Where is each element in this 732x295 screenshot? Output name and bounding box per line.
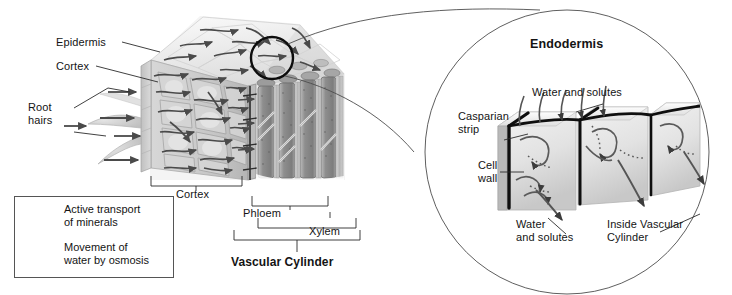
epidermis-left-face <box>141 60 151 172</box>
endodermis-cell <box>578 107 648 205</box>
root-block-3d <box>64 16 345 180</box>
label-epidermis: Epidermis <box>56 36 106 49</box>
figure-canvas: Epidermis Cortex Root hairs Cortex Phloe… <box>0 0 732 295</box>
legend-item-label-0: Active transport of minerals <box>64 203 140 229</box>
label-inside-vascular-cylinder: Inside Vascular Cylinder <box>607 218 683 243</box>
label-root-hairs: Root hairs <box>28 101 52 126</box>
label-water-and-solutes-top: Water and solutes <box>532 86 622 99</box>
label-phloem: Phloem <box>243 207 281 220</box>
label-vascular-cylinder: Vascular Cylinder <box>231 256 333 269</box>
endodermis-inset-panel <box>425 10 709 294</box>
root-hairs-structure <box>88 93 141 164</box>
label-cell-wall: Cell wall <box>478 159 497 184</box>
label-cortex-bracket: Cortex <box>176 188 209 201</box>
label-casparian-strip: Casparian strip <box>458 110 509 135</box>
label-cortex-left: Cortex <box>56 60 89 73</box>
vascular-cylinder-bracket <box>234 230 360 252</box>
label-xylem: Xylem <box>309 225 340 238</box>
legend-item-label-1: Movement of water by osmosis <box>64 241 149 267</box>
inset-title-endodermis: Endodermis <box>530 38 603 51</box>
label-water-and-solutes-bottom: Water and solutes <box>516 218 573 243</box>
